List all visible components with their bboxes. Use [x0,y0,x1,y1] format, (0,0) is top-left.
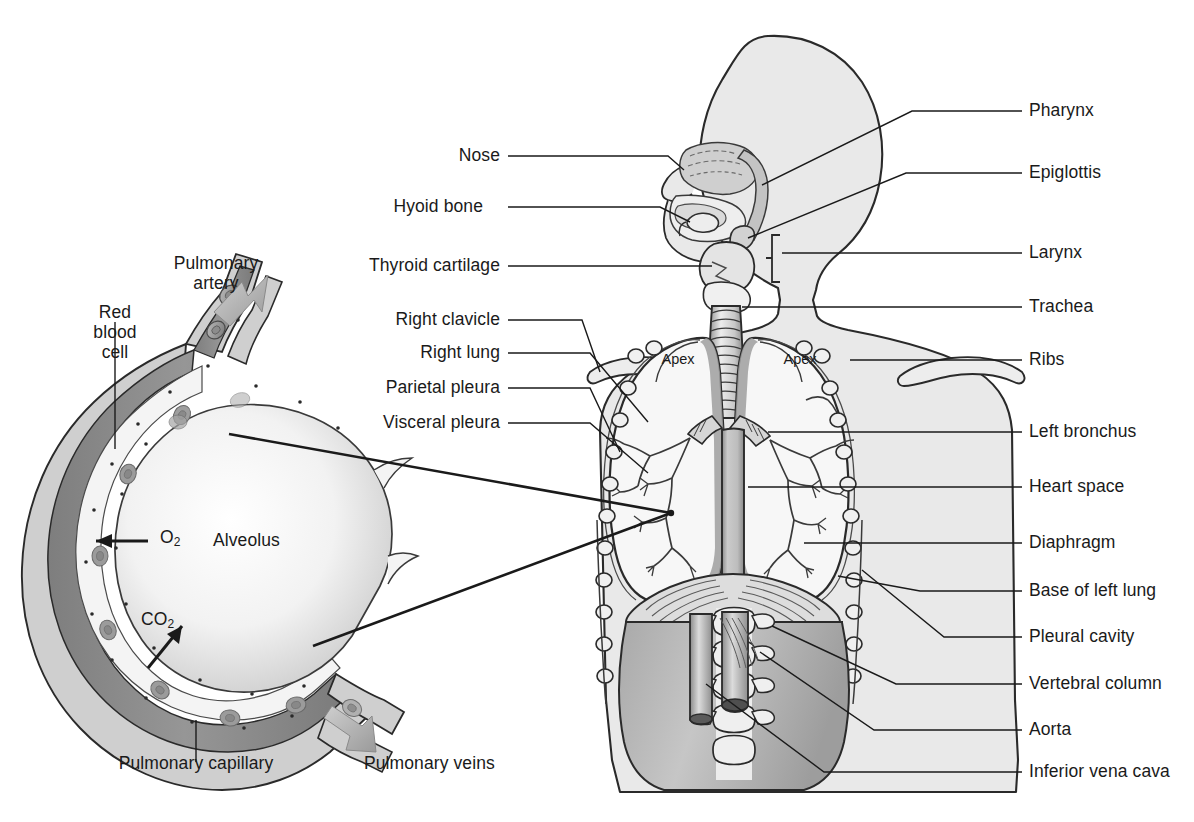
diagram-canvas: Apex Apex [0,0,1194,822]
o2-label: O2 [160,527,180,552]
label-right-lung: Right lung [0,342,500,362]
leader-hyoid-bone [508,207,690,222]
leader-right-clavicle [508,320,600,372]
co2-label: CO2 [141,609,174,634]
label-larynx: Larynx [1029,242,1082,262]
label-ribs: Ribs [1029,349,1064,369]
alveolus-lower-notch [388,553,418,584]
label-pharynx: Pharynx [1029,100,1094,120]
pulmonary-capillary-label: Pulmonary capillary [56,753,336,773]
label-trachea: Trachea [1029,296,1093,316]
label-aorta: Aorta [1029,719,1071,739]
label-heart-space: Heart space [1029,476,1124,496]
label-diaphragm: Diaphragm [1029,532,1116,552]
apex-left-text: Apex [783,351,817,367]
pulmonary-veins-label: Pulmonary veins [364,753,495,773]
artwork-layer: Apex Apex [0,0,1194,822]
inferior-vena-cava-vessel [690,614,712,725]
label-epiglottis: Epiglottis [1029,162,1101,182]
hyoid-bone-shape [687,213,719,232]
leader-nose [508,156,684,170]
label-right-clavicle: Right clavicle [0,309,500,329]
label-thyroid-cartilage: Thyroid cartilage [0,255,500,275]
label-hyoid-bone: Hyoid bone [0,196,483,216]
label-nose: Nose [0,145,500,165]
label-parietal-pleura: Parietal pleura [0,377,500,397]
label-vertebral-column: Vertebral column [1029,673,1162,693]
label-inferior-vena-cava: Inferior vena cava [1029,761,1170,781]
torso-figure: Apex Apex [588,36,1025,792]
label-pleural-cavity: Pleural cavity [1029,626,1134,646]
label-left-bronchus: Left bronchus [1029,421,1136,441]
ivc-lumen [690,714,712,724]
label-visceral-pleura: Visceral pleura [0,412,500,432]
label-base-of-left-lung: Base of left lung [1029,580,1156,600]
apex-right-text: Apex [661,351,695,367]
alveolus-label: Alveolus [213,530,280,550]
